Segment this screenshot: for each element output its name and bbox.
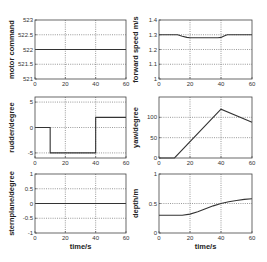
y-tick-label: -5: [28, 150, 34, 156]
subplot-yaw: 0204060050100yaw/degree: [131, 97, 256, 166]
y-tick-label: 1: [154, 171, 158, 177]
x-tick-label: 60: [249, 81, 256, 87]
x-tick-label: 60: [249, 160, 256, 166]
x-tick-label: 20: [187, 235, 194, 241]
y-axis-label: yaw/degree: [131, 107, 140, 148]
x-tick-label: 40: [92, 81, 99, 87]
y-tick-label: 522: [23, 47, 34, 53]
y-tick-label: 0: [30, 125, 34, 131]
x-tick-label: 60: [123, 160, 130, 166]
y-tick-label: 1.2: [149, 47, 158, 53]
y-tick-label: 521: [23, 76, 34, 82]
subplot-rudder: 0204060-505rudder/degree: [7, 97, 130, 166]
x-tick-label: 0: [157, 160, 161, 166]
x-tick-label: 40: [92, 160, 99, 166]
x-tick-label: 20: [62, 235, 69, 241]
x-tick-label: 0: [33, 160, 37, 166]
y-tick-label: 521.5: [18, 61, 34, 67]
y-axis-label: motor command: [7, 20, 16, 79]
y-tick-label: 0.5: [25, 186, 34, 192]
y-tick-label: 0.5: [149, 201, 158, 207]
y-tick-label: 1.3: [149, 32, 158, 38]
subplot-speed: 020406011.11.21.31.4forward speed m/s: [131, 16, 256, 87]
x-axis-label: time/s: [70, 242, 92, 251]
x-tick-label: 60: [123, 81, 130, 87]
figure-canvas: 0204060521521.5522522.5523motor command0…: [0, 0, 267, 262]
y-tick-label: 5: [30, 99, 34, 105]
x-tick-label: 60: [249, 235, 256, 241]
y-axis-label: depth/m: [131, 189, 140, 218]
x-tick-label: 40: [92, 235, 99, 241]
y-tick-label: 1.1: [149, 61, 158, 67]
y-tick-label: 1: [30, 171, 34, 177]
x-tick-label: 60: [123, 235, 130, 241]
y-tick-label: 523: [23, 17, 34, 23]
x-tick-label: 0: [33, 81, 37, 87]
subplot-stern: 0204060-1-0.500.51sternplane/degreetime/…: [7, 171, 130, 251]
y-tick-label: 522.5: [18, 32, 34, 38]
y-tick-label: 100: [147, 114, 158, 120]
x-tick-label: 0: [157, 235, 161, 241]
x-tick-label: 40: [218, 81, 225, 87]
y-tick-label: 50: [150, 135, 157, 141]
x-tick-label: 20: [187, 160, 194, 166]
y-tick-label: -1: [28, 230, 34, 236]
x-tick-label: 0: [157, 81, 161, 87]
subplot-motor: 0204060521521.5522522.5523motor command: [7, 17, 130, 87]
y-tick-label: 0: [30, 201, 34, 207]
y-tick-label: -0.5: [23, 215, 34, 221]
x-tick-label: 40: [218, 160, 225, 166]
y-axis-label: sternplane/degree: [7, 171, 16, 236]
x-tick-label: 20: [62, 81, 69, 87]
x-axis-label: time/s: [195, 242, 217, 251]
y-tick-label: 1.4: [149, 17, 158, 23]
subplot-depth: 020406000.51depth/mtime/s: [131, 171, 256, 251]
y-axis-label: forward speed m/s: [131, 16, 140, 82]
y-axis-label: rudder/degree: [7, 102, 16, 152]
x-tick-label: 20: [62, 160, 69, 166]
x-tick-label: 20: [187, 81, 194, 87]
x-tick-label: 0: [33, 235, 37, 241]
x-tick-label: 40: [218, 235, 225, 241]
